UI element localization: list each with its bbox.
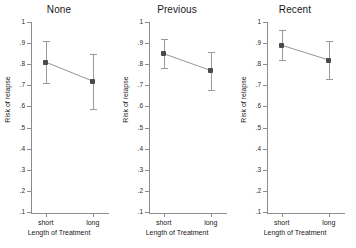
error-bar-cap — [90, 109, 97, 110]
error-bar-cap — [161, 39, 168, 40]
data-point-marker — [90, 79, 95, 84]
data-point-marker — [279, 43, 284, 48]
error-bar-cap — [161, 68, 168, 69]
error-bar-cap — [90, 54, 97, 55]
error-bar-cap — [279, 60, 286, 61]
error-bar-cap — [43, 41, 50, 42]
series-line — [236, 0, 354, 248]
data-point-marker — [326, 58, 331, 63]
error-bar-cap — [326, 41, 333, 42]
series-line — [0, 0, 118, 248]
chart-figure: None1.9.8.7.6.5.4.3.2.1Risk of relapsesh… — [0, 0, 356, 248]
error-bar-cap — [279, 30, 286, 31]
panel-none: None1.9.8.7.6.5.4.3.2.1Risk of relapsesh… — [0, 0, 118, 248]
error-bar-cap — [326, 79, 333, 80]
panel-previous: Previous1.9.8.7.6.5.4.3.2.1Risk of relap… — [118, 0, 236, 248]
data-point-marker — [161, 51, 166, 56]
error-bar-cap — [208, 52, 215, 53]
panel-recent: Recent1.9.8.7.6.5.4.3.2.1Risk of relapse… — [236, 0, 354, 248]
error-bar-cap — [208, 90, 215, 91]
data-point-marker — [208, 68, 213, 73]
data-point-marker — [43, 60, 48, 65]
series-line — [118, 0, 236, 248]
error-bar-cap — [43, 83, 50, 84]
